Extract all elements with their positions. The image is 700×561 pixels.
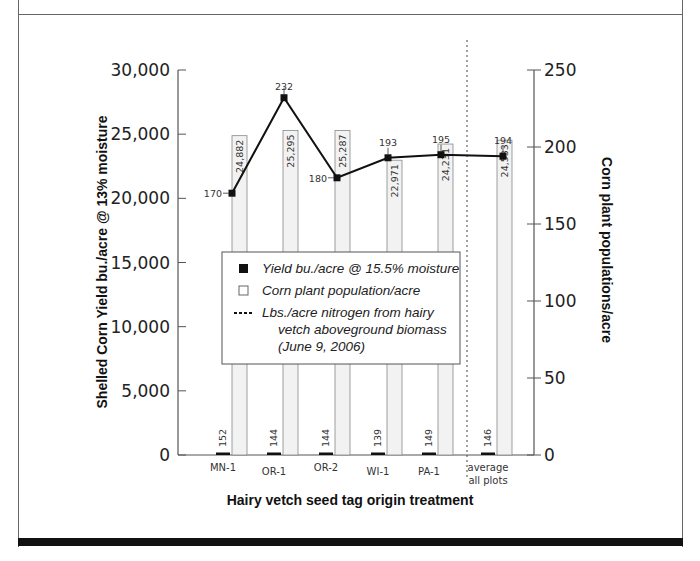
- population-bar-label: 24,882: [234, 140, 245, 173]
- population-bar-label: 25,295: [285, 134, 296, 167]
- yield-bar-label: 139: [372, 429, 383, 447]
- nitrogen-marker: [385, 154, 392, 161]
- yield-bar: [481, 453, 495, 456]
- legend-item-text: (June 9, 2006): [278, 339, 365, 354]
- nitrogen-marker: [281, 94, 288, 101]
- right-tick-label: 200: [544, 137, 576, 157]
- left-tick-label: 0: [159, 445, 170, 465]
- chart: 05,00010,00015,00020,00025,00030,0000501…: [0, 0, 700, 561]
- left-tick-label: 10,000: [111, 317, 170, 337]
- left-tick-label: 20,000: [111, 188, 170, 208]
- category-label: all plots: [468, 475, 507, 486]
- category-label: average: [468, 462, 509, 473]
- left-tick-label: 15,000: [111, 253, 170, 273]
- nitrogen-marker: [334, 174, 341, 181]
- legend-item-text: Corn plant population/acre: [262, 283, 420, 298]
- nitrogen-marker: [500, 153, 507, 160]
- right-tick-label: 0: [544, 445, 555, 465]
- yield-bar-label: 149: [423, 429, 434, 447]
- nitrogen-marker: [229, 190, 236, 197]
- category-label: OR-2: [314, 462, 338, 473]
- nitrogen-value-label: 232: [275, 81, 293, 92]
- nitrogen-marker: [438, 151, 445, 158]
- left-tick-label: 25,000: [111, 124, 170, 144]
- right-tick-label: 150: [544, 214, 576, 234]
- left-tick-label: 5,000: [121, 381, 170, 401]
- legend-yield-swatch-icon: [239, 264, 248, 273]
- legend-item-text: vetch aboveground biomass: [278, 322, 447, 337]
- category-label: MN-1: [210, 462, 236, 473]
- x-axis-title: Hairy vetch seed tag origin treatment: [227, 492, 474, 508]
- category-label: OR-1: [262, 466, 286, 477]
- yield-bar: [216, 453, 230, 456]
- right-axis-title: Corn plant populations/acre: [599, 157, 615, 343]
- left-axis-title: Shelled Corn Yield bu./acre @ 13% moistu…: [94, 115, 110, 408]
- population-bar-label: 24,533: [499, 144, 510, 177]
- legend-item-text: Lbs./acre nitrogen from hairy: [262, 305, 435, 320]
- yield-bar-label: 146: [482, 429, 493, 447]
- population-bar: [497, 140, 512, 455]
- yield-bar-label: 144: [268, 429, 279, 447]
- left-tick-label: 30,000: [111, 60, 170, 80]
- yield-bar-label: 152: [217, 429, 228, 447]
- nitrogen-value-label: 180: [309, 173, 327, 184]
- nitrogen-value-label: 170: [204, 188, 222, 199]
- nitrogen-value-label: 195: [432, 134, 450, 145]
- population-bar-label: 22,971: [389, 164, 400, 197]
- nitrogen-value-label: 193: [379, 137, 397, 148]
- right-tick-label: 250: [544, 60, 576, 80]
- right-tick-label: 50: [544, 368, 566, 388]
- legend-item-text: Yield bu./acre @ 15.5% moisture: [262, 261, 459, 276]
- yield-bar: [371, 453, 385, 456]
- right-tick-label: 100: [544, 291, 576, 311]
- legend-population-swatch-icon: [239, 286, 248, 295]
- nitrogen-value-label: 194: [494, 135, 512, 146]
- yield-bar: [422, 453, 436, 456]
- nitrogen-line: [232, 98, 503, 193]
- population-bar-label: 25,287: [337, 134, 348, 167]
- yield-bar-label: 144: [320, 429, 331, 447]
- yield-bar: [319, 453, 333, 456]
- category-label: WI-1: [367, 466, 390, 477]
- category-label: PA-1: [418, 466, 440, 477]
- yield-bar: [267, 453, 281, 456]
